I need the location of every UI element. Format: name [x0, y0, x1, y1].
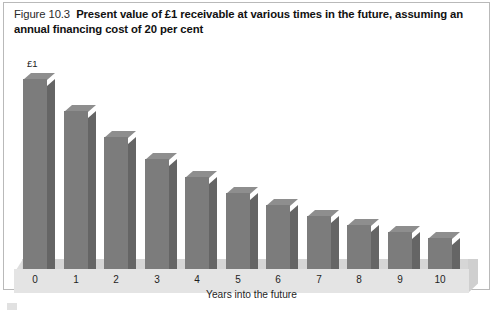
x-tick-label-7: 7: [299, 274, 339, 285]
x-tick-label-2: 2: [96, 274, 136, 285]
bar-side-face: [47, 79, 55, 269]
bar-side-face: [331, 216, 339, 269]
bar-front-face: [428, 238, 452, 269]
bar-side-face: [169, 159, 177, 269]
bar: [388, 232, 412, 269]
bar-front-face: [266, 205, 290, 269]
bar-front-face: [307, 216, 331, 269]
bar-value-label: £1: [27, 58, 38, 69]
bar: [307, 216, 331, 269]
bar-front-face: [185, 177, 209, 269]
x-tick-label-4: 4: [177, 274, 217, 285]
bar-front-face: [347, 225, 371, 269]
bar-chart-plot: £1 012345678910: [4, 43, 489, 290]
bar-side-face: [128, 137, 136, 269]
bar-front-face: [388, 232, 412, 269]
bar: [145, 159, 169, 269]
figure-caption: Figure 10.3 Present value of £1 receivab…: [14, 7, 480, 38]
figure-frame: Figure 10.3 Present value of £1 receivab…: [3, 2, 490, 290]
bar-side-face: [371, 225, 379, 269]
bar-front-face: [104, 137, 128, 269]
x-tick-label-3: 3: [137, 274, 177, 285]
x-tick-label-9: 9: [380, 274, 420, 285]
bar: [347, 225, 371, 269]
bar: [266, 205, 290, 269]
bar: [428, 238, 452, 269]
bar-side-face: [250, 193, 258, 269]
bar-front-face: [226, 193, 250, 269]
bar-front-face: [23, 79, 47, 269]
x-tick-label-8: 8: [339, 274, 379, 285]
bar: [185, 177, 209, 269]
figure-number: Figure 10.3: [14, 8, 70, 20]
x-tick-label-5: 5: [218, 274, 258, 285]
bar-front-face: [64, 111, 88, 269]
chart-floor-right-face: [468, 259, 478, 293]
bar: [23, 79, 47, 269]
bar: [64, 111, 88, 269]
x-tick-label-10: 10: [420, 274, 460, 285]
x-tick-label-6: 6: [258, 274, 298, 285]
bar-side-face: [88, 111, 96, 269]
bar: [226, 193, 250, 269]
bar: [104, 137, 128, 269]
bar-side-face: [452, 238, 460, 269]
bar-side-face: [290, 205, 298, 269]
x-axis-title: Years into the future: [4, 289, 495, 300]
bar-side-face: [209, 177, 217, 269]
x-tick-label-0: 0: [15, 274, 55, 285]
bar-side-face: [412, 232, 420, 269]
figure-caption-text: Present value of £1 receivable at variou…: [14, 8, 463, 35]
x-tick-label-1: 1: [56, 274, 96, 285]
scan-artifact: [7, 303, 17, 310]
bar-front-face: [145, 159, 169, 269]
